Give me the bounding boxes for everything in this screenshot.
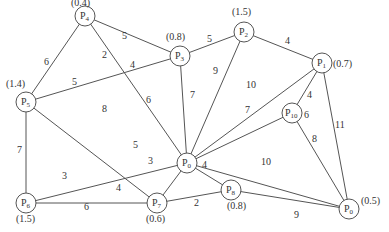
- edge-weight-label: 4: [307, 89, 312, 100]
- edge-weight-label: 4: [202, 159, 207, 170]
- node-weight: (0.6): [146, 213, 165, 225]
- edge-p3-p5: [26, 56, 180, 102]
- edge-weight-label: 9: [294, 209, 299, 220]
- edge-weight-label: 11: [335, 119, 345, 130]
- node-weight: (0.8): [166, 31, 185, 43]
- edge-weight-label: 5: [207, 33, 212, 44]
- edge-p10-p0: [187, 113, 292, 163]
- node-p7: P7(0.6): [146, 193, 167, 225]
- node-p8: P8(0.8): [221, 180, 246, 212]
- nodes-layer: P0P1(0.7)P2(1.5)P3(0.8)P4(0.4)P5(1.4)P6(…: [6, 0, 380, 225]
- edge-weight-label: 3: [148, 155, 153, 166]
- edge-weight-label: 7: [190, 89, 195, 100]
- edge-p2-p1: [244, 32, 322, 63]
- edge-weight-label: 6: [84, 201, 89, 212]
- graph-diagram: 566557491041178785364102924346 P0P1(0.7)…: [0, 0, 389, 232]
- edge-weight-label: 9: [213, 65, 218, 76]
- edge-weight-label: 4: [285, 35, 290, 46]
- node-weight: (1.5): [16, 213, 35, 225]
- edge-weight-label: 10: [261, 156, 271, 167]
- edge-p3-p0: [180, 56, 187, 163]
- edge-weight-label: 7: [17, 144, 22, 155]
- node-p1: P1(0.7): [312, 53, 352, 73]
- node-p0: P0: [177, 153, 197, 173]
- edge-weight-label: 7: [245, 104, 250, 115]
- edge-weight-label: 4: [116, 182, 121, 193]
- node-p3: P3(0.8): [166, 31, 190, 66]
- node-p5: P5(1.4): [6, 78, 36, 112]
- edge-weight-label: 6: [146, 94, 151, 105]
- node-weight: (0.5): [361, 195, 380, 207]
- node-p6: P6(1.5): [16, 193, 36, 225]
- node-p4: P4(0.4): [71, 0, 95, 26]
- edge-p0-p9: [187, 163, 349, 209]
- edge-p5-p7: [26, 102, 157, 203]
- node-p10: P10: [282, 103, 302, 123]
- edge-weight-label: 8: [312, 133, 317, 144]
- edge-p8-p9: [231, 190, 349, 209]
- edge-weight-label: 5: [72, 76, 77, 87]
- edge-weight-label: 4: [130, 59, 135, 70]
- edge-weight-label: 10: [246, 79, 256, 90]
- node-weight: (1.4): [6, 78, 25, 90]
- node-p9: P0(0.5): [339, 195, 380, 219]
- edge-weight-label: 2: [102, 49, 107, 60]
- edge-weight-label: 2: [194, 197, 199, 208]
- edge-weight-label: 3: [62, 170, 67, 181]
- node-weight: (0.7): [333, 58, 352, 70]
- edge-p2-p0: [187, 32, 244, 163]
- node-weight: (1.5): [232, 6, 251, 18]
- node-p2: P2(1.5): [232, 6, 254, 42]
- edge-weight-label: 8: [102, 103, 107, 114]
- edge-weight-label: 6: [304, 109, 309, 120]
- node-weight: (0.4): [71, 0, 90, 9]
- node-weight: (0.8): [227, 200, 246, 212]
- edge-p4-p5: [26, 16, 85, 102]
- edge-weight-label: 5: [122, 30, 127, 41]
- edge-weight-label: 5: [133, 139, 138, 150]
- edge-weight-label: 6: [44, 56, 49, 67]
